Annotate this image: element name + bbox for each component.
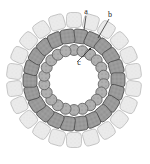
- outer-ring-unit: [6, 80, 23, 97]
- outer-ring-unit: [125, 63, 142, 80]
- ring-diagram-svg: abc: [0, 0, 150, 164]
- outer-ring-unit: [67, 13, 82, 28]
- outer-ring-unit: [82, 128, 101, 147]
- outer-ring-unit: [48, 13, 67, 32]
- figure-container: abc: [0, 0, 150, 164]
- hollow-core: [52, 58, 96, 102]
- label-b: b: [108, 10, 112, 19]
- outer-ring-unit: [125, 80, 142, 97]
- label-c: c: [77, 58, 81, 67]
- middle-ring-unit: [60, 29, 76, 45]
- outer-ring-unit: [67, 133, 82, 148]
- outer-ring-unit: [48, 128, 67, 147]
- label-a: a: [84, 7, 88, 16]
- hollow-core-disc: [52, 58, 96, 102]
- inner-ring-unit: [60, 46, 71, 57]
- outer-ring-unit: [6, 63, 23, 80]
